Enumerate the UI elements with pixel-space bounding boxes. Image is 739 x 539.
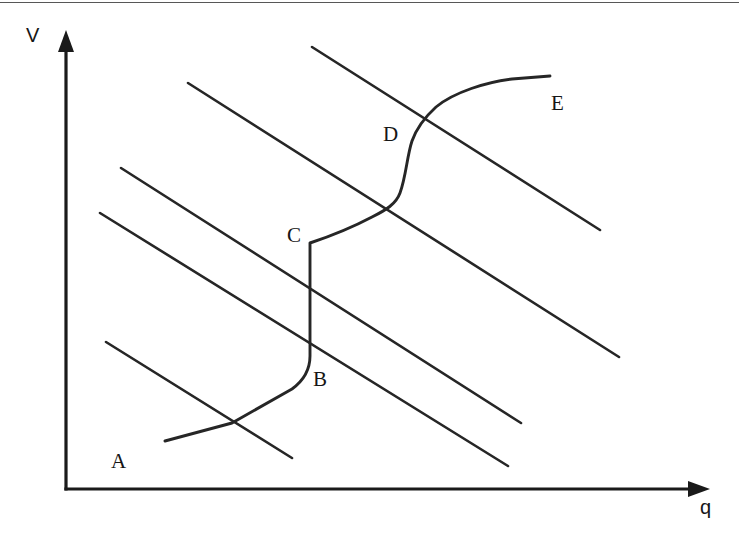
- y-axis-label: V: [26, 25, 39, 45]
- point-label-d: D: [383, 124, 398, 145]
- x-axis-arrowhead: [688, 481, 710, 497]
- demand-curve-1: [106, 342, 292, 458]
- supply-curve-group: [165, 76, 550, 441]
- x-axis-label: q: [700, 497, 711, 517]
- demand-curve-2: [100, 213, 508, 466]
- point-label-a: A: [111, 451, 126, 472]
- demand-curve-5: [312, 47, 600, 230]
- demand-curve-4: [188, 83, 619, 357]
- point-label-c: C: [287, 225, 301, 246]
- demand-curves-group: [100, 47, 619, 466]
- point-label-b: B: [313, 369, 327, 390]
- figure-canvas: V q A B C D E: [0, 0, 739, 539]
- axes-group: [58, 30, 710, 497]
- y-axis-arrowhead: [58, 30, 74, 52]
- point-label-e: E: [551, 93, 564, 114]
- supply-curve: [165, 76, 550, 441]
